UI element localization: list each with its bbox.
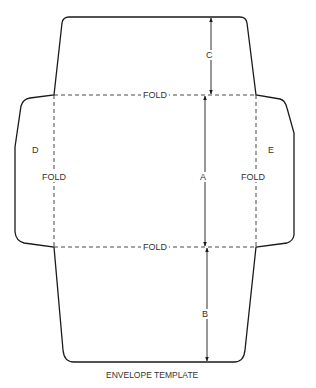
dimension-b-label: B [202,309,208,319]
flap-label-e: E [268,145,274,155]
dimension-c-label: C [206,50,213,60]
dimension-a-label: A [200,172,206,182]
flap-label-d: D [32,145,39,155]
envelope-diagram [0,0,316,388]
fold-label-right: FOLD [241,172,265,182]
fold-label-top: FOLD [141,90,169,100]
fold-label-bottom: FOLD [141,242,169,252]
envelope-outline [15,17,294,362]
diagram-title: ENVELOPE TEMPLATE [106,370,198,380]
fold-label-left: FOLD [42,172,66,182]
